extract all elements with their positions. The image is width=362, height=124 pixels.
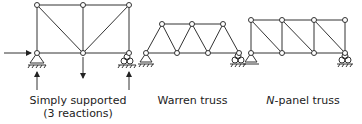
caption-line1: Simply supported — [28, 94, 128, 107]
caption-warren-truss: Warren truss — [155, 94, 230, 107]
warren-truss — [138, 24, 246, 67]
n-panel-truss — [243, 20, 353, 67]
caption-suffix: -panel truss — [274, 94, 339, 107]
simply-supported-truss — [4, 5, 136, 90]
caption-n-panel-truss: N-panel truss — [258, 94, 348, 107]
caption-simply-supported: Simply supported (3 reactions) — [28, 94, 128, 120]
caption-line2: (3 reactions) — [28, 107, 128, 120]
truss-joints — [35, 3, 348, 56]
